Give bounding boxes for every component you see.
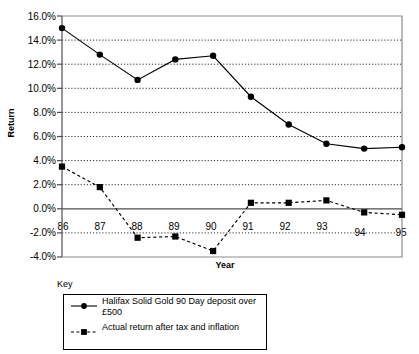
- legend-marker-circle-icon: [70, 301, 98, 311]
- legend-entry: Actual return after tax and inflation: [64, 323, 268, 349]
- legend-entry-label: Halifax Solid Gold 90 Day deposit over £…: [102, 296, 264, 318]
- legend-title: Key: [57, 279, 73, 290]
- chart-container: Return 16.0% 14.0% 12.0% 10.0% 8.0% 6.0%…: [0, 0, 419, 354]
- legend-marker-square-icon: [70, 327, 98, 337]
- legend-entry: Halifax Solid Gold 90 Day deposit over £…: [64, 297, 268, 323]
- legend-entry-label: Actual return after tax and inflation: [102, 322, 264, 333]
- legend-box: Halifax Solid Gold 90 Day deposit over £…: [63, 294, 267, 350]
